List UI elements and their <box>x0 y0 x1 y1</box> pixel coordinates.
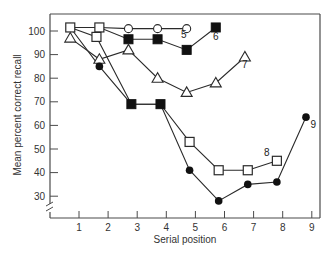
open-square-marker <box>214 166 223 175</box>
x-axis: 123456789 <box>50 211 320 233</box>
open-square-marker <box>243 166 252 175</box>
series-label-7: 7 <box>242 59 248 70</box>
series-markers <box>65 23 310 205</box>
open-square-marker <box>95 23 104 32</box>
filled-circle-marker <box>96 63 104 71</box>
x-tick-label: 3 <box>134 222 140 233</box>
filled-square-marker <box>124 35 133 44</box>
y-tick-label: 30 <box>34 191 46 202</box>
x-tick-label: 9 <box>309 222 315 233</box>
filled-circle-marker <box>215 197 223 205</box>
filled-circle-marker <box>244 181 252 189</box>
y-tick-label: 50 <box>34 144 46 155</box>
series-label-9: 9 <box>310 119 316 130</box>
x-tick-label: 2 <box>105 222 111 233</box>
plot-frame <box>50 14 320 218</box>
x-tick-label: 6 <box>222 222 228 233</box>
open-square-marker <box>92 32 101 41</box>
y-axis-title: Mean percent correct recall <box>12 54 23 175</box>
filled-square-marker <box>127 100 136 109</box>
y-tick-label: 40 <box>34 167 46 178</box>
open-triangle-marker <box>65 33 76 43</box>
filled-square-marker <box>182 45 191 54</box>
y-tick-label: 80 <box>34 73 46 84</box>
open-circle-marker <box>154 25 162 33</box>
series-label-5: 5 <box>181 29 187 40</box>
filled-square-marker <box>153 35 162 44</box>
x-tick-label: 7 <box>251 222 257 233</box>
x-axis-title: Serial position <box>154 234 217 245</box>
x-tick-label: 8 <box>280 222 286 233</box>
y-tick-label: 60 <box>34 120 46 131</box>
series-line-8 <box>70 28 277 171</box>
filled-circle-marker <box>302 113 310 121</box>
open-square-marker <box>185 137 194 146</box>
y-tick-label: 90 <box>34 49 46 60</box>
x-tick-label: 1 <box>76 222 82 233</box>
open-square-marker <box>66 23 75 32</box>
series-label-6: 6 <box>213 31 219 42</box>
y-axis: 30405060708090100 <box>28 14 58 218</box>
series-label-8: 8 <box>264 147 270 158</box>
open-square-marker <box>272 156 281 165</box>
open-circle-marker <box>124 25 132 33</box>
filled-circle-marker <box>186 166 194 174</box>
open-triangle-marker <box>123 44 134 54</box>
x-tick-label: 5 <box>193 222 199 233</box>
y-tick-label: 70 <box>34 96 46 107</box>
y-tick-label: 100 <box>28 26 45 37</box>
filled-square-marker <box>156 100 165 109</box>
recall-chart: 30405060708090100 123456789 56789 Serial… <box>0 0 333 255</box>
filled-circle-marker <box>273 178 281 186</box>
x-tick-label: 4 <box>164 222 170 233</box>
